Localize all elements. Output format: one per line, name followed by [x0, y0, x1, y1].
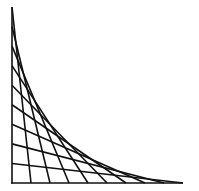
envelope-lines — [12, 7, 183, 183]
axes — [11, 7, 183, 184]
envelope-line — [12, 27, 50, 183]
string-art-diagram — [0, 0, 199, 191]
envelope-line — [12, 46, 69, 183]
